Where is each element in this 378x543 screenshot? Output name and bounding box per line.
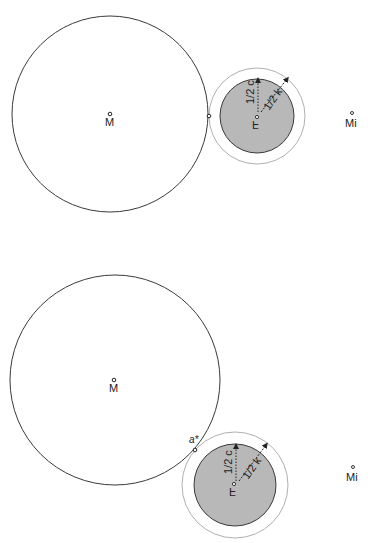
label-m: M	[105, 116, 114, 128]
figure-bottom: M a* 1/2 c 1/2 k F Mi	[10, 275, 358, 538]
label-mi: Mi	[346, 471, 358, 483]
label-f: F	[229, 486, 236, 498]
point-mi	[351, 112, 354, 115]
large-circle-m	[12, 16, 208, 212]
point-mi	[352, 466, 355, 469]
large-circle-m	[10, 275, 220, 485]
label-half-c: 1/2 c	[222, 450, 234, 474]
tangent-point-a-star	[193, 448, 197, 452]
diagram-canvas: M 1/2 c 1/2 k F Mi M a* 1/2 c 1/2 k F Mi	[0, 0, 378, 543]
label-mi: Mi	[345, 117, 357, 129]
label-a-star: a*	[189, 434, 200, 445]
center-point-f	[255, 115, 258, 118]
figure-top: M 1/2 c 1/2 k F Mi	[12, 16, 357, 212]
label-half-c: 1/2 c	[244, 80, 256, 104]
tangent-point	[207, 114, 211, 118]
label-m: M	[109, 382, 118, 394]
label-f: F	[252, 119, 259, 131]
center-point-f	[232, 482, 235, 485]
